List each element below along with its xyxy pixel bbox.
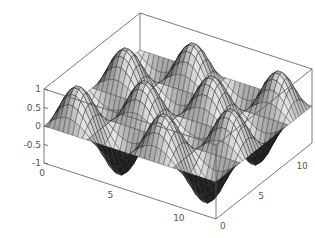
z-tick-label: -1 bbox=[32, 158, 41, 168]
z-tick bbox=[44, 108, 48, 109]
surface-plot: 10.50-0.5-1 0510 0510 bbox=[0, 0, 315, 238]
z-tick-label: 0 bbox=[35, 121, 41, 131]
y-tick-label: 0 bbox=[220, 221, 226, 231]
x-tick-label: 5 bbox=[108, 190, 114, 200]
z-tick bbox=[44, 163, 48, 164]
z-tick bbox=[44, 145, 48, 146]
z-tick-label: 1 bbox=[35, 84, 41, 94]
z-tick-label: -0.5 bbox=[23, 140, 41, 150]
z-tick-label: 0.5 bbox=[27, 103, 41, 113]
x-axis-ticks: 0510 bbox=[39, 168, 185, 223]
z-tick bbox=[44, 89, 48, 90]
y-axis-ticks: 0510 bbox=[220, 161, 308, 231]
surface-mesh bbox=[44, 43, 312, 203]
y-tick-label: 10 bbox=[296, 161, 308, 171]
y-tick-label: 5 bbox=[258, 191, 264, 201]
x-tick-label: 0 bbox=[39, 168, 45, 178]
x-tick-label: 10 bbox=[173, 213, 185, 223]
